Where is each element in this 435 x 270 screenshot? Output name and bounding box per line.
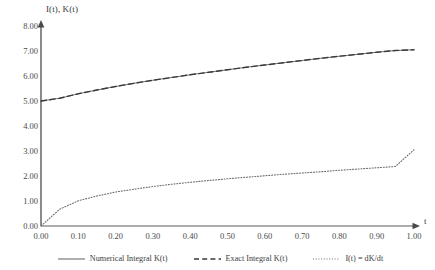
axis-lines (38, 20, 420, 229)
series-line (41, 50, 414, 101)
plot-canvas (0, 0, 435, 270)
legend-swatch-dashed (194, 255, 221, 263)
legend-item-numerical: Numerical Integral K(t) (58, 255, 168, 263)
legend-label-exact: Exact Integral K(t) (226, 255, 288, 263)
chart-legend: Numerical Integral K(t) Exact Integral K… (0, 250, 435, 268)
series-line (41, 150, 414, 226)
legend-item-derivative: I(t) = dK/dt (313, 255, 383, 263)
data-series-group (41, 50, 414, 226)
legend-label-derivative: I(t) = dK/dt (345, 255, 383, 263)
legend-swatch-solid (58, 255, 85, 263)
series-line (41, 50, 414, 101)
legend-label-numerical: Numerical Integral K(t) (90, 255, 168, 263)
legend-item-exact: Exact Integral K(t) (194, 255, 288, 263)
legend-swatch-dotted (313, 255, 340, 263)
chart-container: I(t), K(t) t 0.001.002.003.004.005.006.0… (0, 0, 435, 270)
